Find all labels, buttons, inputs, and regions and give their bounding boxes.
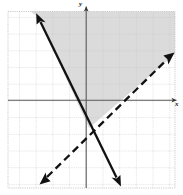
x-axis-label: x: [175, 101, 179, 108]
y-axis-label: y: [79, 1, 82, 8]
coordinate-graph: y x: [0, 0, 183, 195]
graph-canvas: [0, 0, 183, 195]
